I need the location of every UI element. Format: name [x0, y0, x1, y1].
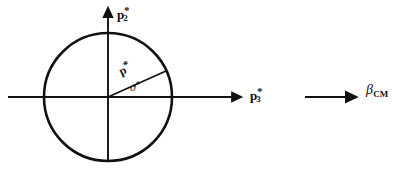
- axis-label-p2-star: *: [124, 4, 130, 16]
- angle-label-symbol: ϑ: [130, 81, 135, 93]
- angle-label-theta: ϑ*: [130, 80, 141, 93]
- axis-label-p3-star: *: [257, 85, 263, 97]
- boost-arrow-label-subscript: CM: [373, 89, 388, 99]
- axis-label-p2: p2*: [117, 5, 130, 23]
- momentum-space-diagram: p2* p3* p* ϑ* βCM: [0, 0, 405, 171]
- boost-arrow-label-symbol: β: [366, 82, 373, 97]
- axis-label-p3: p3*: [250, 86, 263, 104]
- boost-arrow-label: βCM: [366, 83, 388, 99]
- diagram-canvas: [0, 0, 405, 171]
- angle-label-star: *: [136, 79, 141, 90]
